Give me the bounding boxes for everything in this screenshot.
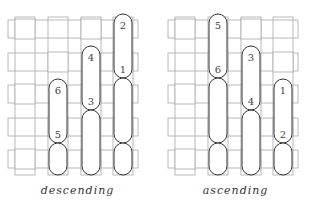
- ascending-panel: 563412: [168, 14, 298, 175]
- float-capsule: [242, 110, 260, 175]
- float-capsule: [114, 78, 132, 143]
- float-top-label: 4: [88, 52, 94, 63]
- weave-diagram: 214365 563412: [0, 0, 311, 208]
- ascending-caption: ascending: [158, 184, 311, 197]
- float-capsule: [209, 78, 227, 143]
- float-bottom-label: 3: [88, 96, 94, 107]
- float-top-label: 5: [215, 20, 221, 31]
- warp-over-segment: [175, 149, 195, 169]
- float-capsule: [49, 143, 67, 175]
- warp-over-segment: [15, 149, 35, 169]
- warp-over-segment: [273, 52, 293, 72]
- float-capsule: [209, 143, 227, 175]
- warp-over-segment: [15, 19, 35, 39]
- float-bottom-label: 4: [248, 96, 254, 107]
- warp-over-segment: [81, 19, 101, 39]
- float-capsule: [82, 110, 100, 175]
- float-top-label: 2: [120, 20, 126, 31]
- float-bottom-label: 2: [280, 129, 286, 140]
- float-top-label: 3: [248, 52, 254, 63]
- descending-panel: 214365: [8, 14, 138, 175]
- float-capsule: [274, 143, 292, 175]
- float-top-label: 1: [280, 85, 286, 96]
- warp-over-segment: [48, 52, 68, 72]
- float-bottom-label: 1: [120, 64, 126, 75]
- descending-caption: descending: [0, 184, 155, 197]
- warp-over-segment: [15, 84, 35, 104]
- warp-over-segment: [175, 84, 195, 104]
- warp-over-segment: [241, 19, 261, 39]
- float-top-label: 6: [55, 85, 61, 96]
- float-capsule: [114, 143, 132, 175]
- float-bottom-label: 6: [215, 64, 221, 75]
- float-bottom-label: 5: [55, 129, 61, 140]
- warp-over-segment: [175, 19, 195, 39]
